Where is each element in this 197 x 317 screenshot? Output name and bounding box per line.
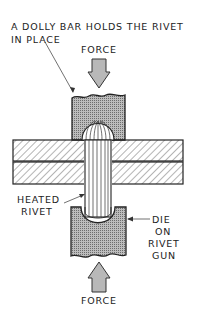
die-label-line-4: GUN <box>152 250 176 262</box>
title-line-1: A DOLLY BAR HOLDS THE RIVET <box>11 21 184 33</box>
heated-rivet-label-line-1: HEATED <box>17 194 60 206</box>
force-bottom-label: FORCE <box>81 295 117 307</box>
die-label-line-3: RIVET <box>148 238 180 250</box>
force-arrow-down-icon <box>88 59 110 88</box>
heated-rivet-label-line-2: RIVET <box>21 206 53 218</box>
force-top-label: FORCE <box>81 44 117 56</box>
title-line-2: IN PLACE <box>11 34 61 46</box>
title-leader-line <box>45 42 73 92</box>
die-label-line-2: ON <box>155 226 171 238</box>
force-arrow-up-icon <box>88 262 110 292</box>
die-label-line-1: DIE <box>152 214 171 226</box>
title-leader-arrowhead <box>70 87 75 93</box>
